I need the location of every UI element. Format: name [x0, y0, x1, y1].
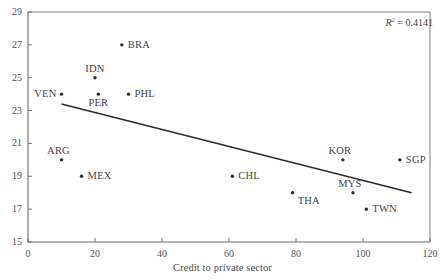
point-label-sgp: SGP — [406, 155, 426, 166]
point-label-mys: MYS — [335, 178, 365, 189]
y-tick-label: 29 — [2, 7, 22, 17]
y-tick-label: 19 — [2, 171, 22, 181]
point-label-bra: BRA — [128, 40, 150, 51]
point-label-arg: ARG — [44, 146, 74, 157]
point-label-mex: MEX — [88, 171, 112, 182]
x-tick-label: 120 — [423, 249, 438, 259]
plot-canvas — [0, 0, 445, 280]
r-squared-annotation: R2 = 0.4141 — [386, 16, 434, 28]
r2-value: = 0.4141 — [395, 17, 433, 28]
point-label-phl: PHL — [135, 89, 155, 100]
x-tick-label: 40 — [157, 249, 167, 259]
x-tick-label: 80 — [291, 249, 301, 259]
x-tick-label: 20 — [90, 249, 100, 259]
point-label-ven: VEN — [27, 89, 57, 100]
x-axis-title: Credit to private sector — [0, 262, 445, 273]
point-label-idn: IDN — [80, 63, 110, 74]
axes — [28, 12, 430, 242]
point-label-tha: THA — [298, 195, 320, 206]
point-label-chl: CHL — [238, 171, 260, 182]
x-tick-label: 60 — [224, 249, 234, 259]
y-tick-label: 23 — [2, 106, 22, 116]
scatter-plot-figure: 1517192123252729020406080100120 VENARGME… — [0, 0, 445, 280]
y-tick-label: 17 — [2, 204, 22, 214]
y-tick-label: 25 — [2, 73, 22, 83]
y-tick-label: 15 — [2, 237, 22, 247]
x-tick-label: 0 — [26, 249, 31, 259]
y-tick-label: 27 — [2, 40, 22, 50]
point-label-per: PER — [83, 98, 113, 109]
point-label-twn: TWN — [372, 204, 397, 215]
point-label-kor: KOR — [325, 146, 355, 157]
y-tick-label: 21 — [2, 138, 22, 148]
x-tick-label: 100 — [356, 249, 371, 259]
